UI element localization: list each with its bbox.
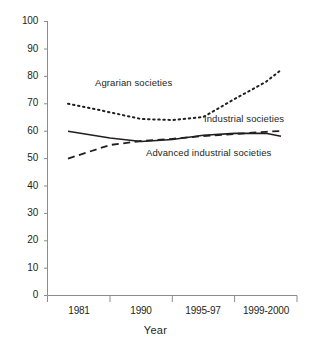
y-tick-label-80: 80: [12, 70, 38, 81]
y-axis-ticks: [44, 22, 48, 296]
y-tick-label-40: 40: [12, 180, 38, 191]
y-tick-label-100: 100: [12, 15, 38, 26]
y-tick-label-10: 10: [12, 262, 38, 273]
series-line-industrial: [68, 131, 281, 141]
series-annotation-agrarian: Agrarian societies: [95, 77, 172, 88]
y-tick-label-50: 50: [12, 152, 38, 163]
y-tick-label-20: 20: [12, 234, 38, 245]
chart-plot-area: [0, 0, 311, 344]
x-tick-label-1981: 1981: [53, 305, 105, 316]
series-annotation-industrial: Industrial societies: [204, 113, 284, 124]
x-tick-label-1995-97: 1995-97: [177, 305, 229, 316]
y-tick-label-70: 70: [12, 97, 38, 108]
series-annotation-advanced-industrial: Advanced industrial societies: [146, 147, 271, 158]
x-tick-label-1999-2000: 1999-2000: [235, 305, 297, 316]
y-tick-label-0: 0: [12, 289, 38, 300]
y-tick-label-90: 90: [12, 43, 38, 54]
chart-container: 100 90 80 70 60 50 40 30 20 10 0 1981 19…: [0, 0, 311, 344]
x-tick-label-1990: 1990: [115, 305, 167, 316]
x-axis-title: Year: [0, 324, 311, 336]
y-tick-label-30: 30: [12, 207, 38, 218]
y-tick-label-60: 60: [12, 125, 38, 136]
x-axis-ticks: [48, 296, 298, 303]
